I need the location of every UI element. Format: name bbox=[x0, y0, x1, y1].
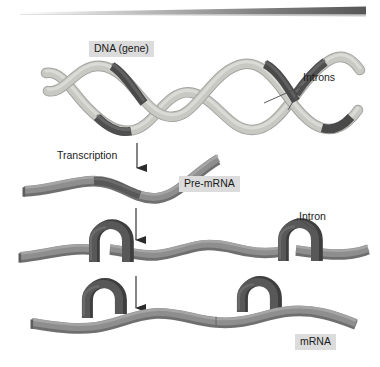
label-mrna: mRNA bbox=[295, 334, 336, 350]
label-dna-gene: DNA (gene) bbox=[89, 41, 154, 57]
label-intron: Intron bbox=[299, 211, 326, 222]
excised-intron bbox=[84, 283, 122, 318]
label-pre-mrna: Pre-mRNA bbox=[179, 176, 240, 192]
stage-mrna bbox=[31, 281, 357, 329]
stage-pre-mrna-looped bbox=[19, 218, 369, 263]
stage-dna-helix bbox=[46, 55, 360, 132]
intron-loop bbox=[91, 224, 129, 262]
label-introns: Introns bbox=[303, 72, 335, 83]
excised-intron bbox=[239, 281, 277, 312]
dna-intron-segment bbox=[112, 66, 144, 103]
label-transcription: Transcription bbox=[57, 150, 117, 161]
top-wedge-bar bbox=[20, 7, 366, 17]
figure-transcription-splicing: DNA (gene) Introns Transcription Pre-mRN… bbox=[0, 0, 380, 367]
